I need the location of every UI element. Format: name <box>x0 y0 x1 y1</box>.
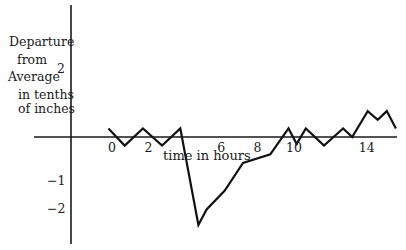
y-tick-label: 2 <box>57 62 65 76</box>
y-tick-label: −1 <box>47 174 65 188</box>
y-axis-title-line: Average <box>8 70 60 84</box>
data-series-line <box>108 111 396 225</box>
y-axis-title-line: of inches <box>18 102 75 116</box>
x-tick-label: 8 <box>254 141 262 155</box>
y-axis-title-line: from <box>17 53 47 67</box>
y-axis-title-line: in tenths <box>18 88 74 102</box>
x-tick-label: 0 <box>108 141 116 155</box>
y-tick-label: −2 <box>47 202 65 216</box>
x-tick-label: 14 <box>359 141 375 155</box>
x-axis-title: time in hours <box>163 149 251 163</box>
y-axis-title-line: Departure <box>9 35 74 49</box>
x-tick-label: 10 <box>286 141 302 155</box>
x-tick-label: 2 <box>144 141 152 155</box>
